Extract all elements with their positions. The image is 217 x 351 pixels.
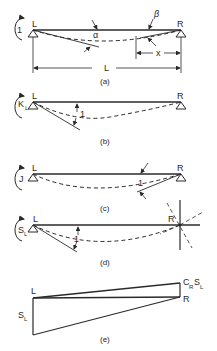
right-label: R bbox=[177, 163, 184, 173]
left-label: L bbox=[31, 286, 36, 296]
alpha-arrow-icon bbox=[92, 20, 97, 29]
angle-arrow-lower-icon bbox=[140, 192, 146, 199]
right-tangent bbox=[140, 30, 181, 38]
angle-label: 1 bbox=[80, 109, 85, 119]
caption-c: (c) bbox=[100, 204, 110, 213]
panel-a: 1 L R α β x L (a) bbox=[15, 9, 186, 86]
left-label: L bbox=[33, 214, 38, 224]
left-tangent bbox=[33, 225, 77, 252]
beta-arrow-icon bbox=[149, 19, 153, 29]
deflected-shape bbox=[33, 174, 181, 188]
deflected-shape bbox=[33, 102, 181, 118]
left-label: L bbox=[32, 163, 37, 173]
span-label: L bbox=[104, 63, 109, 73]
right-label: R bbox=[183, 294, 190, 304]
moment-label: J bbox=[19, 174, 24, 184]
left-support-icon bbox=[28, 225, 38, 232]
left-support-icon bbox=[28, 174, 38, 181]
angle-label: 1 bbox=[138, 178, 143, 188]
caption-b: (b) bbox=[100, 137, 110, 146]
angle-arrow-upper-icon bbox=[141, 163, 148, 173]
panel-b: K L L R 1 (b) bbox=[15, 91, 186, 146]
rotated-tangent bbox=[180, 212, 203, 225]
right-label: R bbox=[177, 91, 184, 101]
angle-label: 1 bbox=[74, 234, 79, 244]
angle-arrow-down-icon bbox=[74, 118, 76, 125]
beta-label: β bbox=[153, 9, 159, 19]
moment-label: 1 bbox=[17, 25, 22, 35]
moment-subscript: L bbox=[24, 231, 28, 237]
caption-a: (a) bbox=[100, 77, 110, 86]
caption-d: (d) bbox=[100, 258, 110, 267]
beam-diagram: 1 L R α β x L (a) K L bbox=[0, 0, 217, 351]
x-label: x bbox=[156, 48, 161, 58]
panel-c: J L R 1 (c) bbox=[15, 163, 186, 213]
left-support-icon bbox=[28, 102, 38, 109]
top-line bbox=[33, 283, 180, 298]
right-label: R bbox=[177, 19, 184, 29]
bottom-line bbox=[33, 297, 180, 335]
alpha-arrow-lower-icon bbox=[84, 47, 90, 52]
baseline bbox=[33, 297, 180, 298]
right-value-s-subscript: L bbox=[200, 284, 204, 290]
panel-e: L R S L C R S L (e) bbox=[18, 277, 204, 344]
left-value-subscript: L bbox=[24, 316, 28, 322]
alpha-label: α bbox=[93, 30, 98, 40]
caption-e: (e) bbox=[100, 335, 110, 344]
left-tangent bbox=[33, 30, 99, 47]
beta-arrow-lower-icon bbox=[148, 38, 156, 46]
left-label: L bbox=[32, 19, 37, 29]
left-label: L bbox=[32, 91, 37, 101]
moment-label: K bbox=[18, 99, 24, 109]
